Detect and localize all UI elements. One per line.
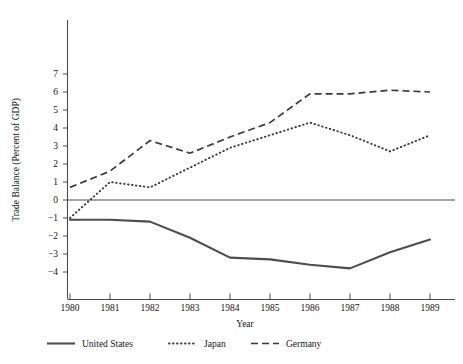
chart-legend: United StatesJapanGermany xyxy=(47,339,322,349)
x-axis-ticks xyxy=(70,294,430,300)
y-axis: 76543210−1−2−3−4 Trade Balance (Percent … xyxy=(11,20,68,299)
y-tick-label-6: 6 xyxy=(53,87,58,97)
y-tick-label-7: 7 xyxy=(53,69,58,79)
trade-balance-line-chart: 76543210−1−2−3−4 Trade Balance (Percent … xyxy=(0,0,463,364)
y-tick-label--1: −1 xyxy=(48,213,58,223)
x-axis: 1980198119821983198419851986198719881989… xyxy=(61,294,456,330)
legend-label-united-states: United States xyxy=(82,339,133,349)
y-tick-label-5: 5 xyxy=(53,105,58,115)
trade-balance-figure: 76543210−1−2−3−4 Trade Balance (Percent … xyxy=(0,0,463,364)
y-tick-label-2: 2 xyxy=(53,159,58,169)
x-tick-label-1985: 1985 xyxy=(261,303,280,313)
x-tick-label-1984: 1984 xyxy=(221,303,240,313)
legend-label-japan: Japan xyxy=(204,339,226,349)
y-axis-tick-labels: 76543210−1−2−3−4 xyxy=(48,69,58,277)
x-tick-label-1980: 1980 xyxy=(61,303,80,313)
x-tick-label-1988: 1988 xyxy=(381,303,400,313)
series-line-japan xyxy=(70,123,430,218)
y-tick-label--2: −2 xyxy=(48,231,58,241)
y-axis-ticks xyxy=(63,74,68,272)
y-tick-label--3: −3 xyxy=(48,249,58,259)
y-tick-label-0: 0 xyxy=(53,195,58,205)
series-line-united-states xyxy=(70,220,430,269)
y-axis-title: Trade Balance (Percent of GDP) xyxy=(11,98,22,222)
y-tick-label-4: 4 xyxy=(53,123,58,133)
y-tick-label-3: 3 xyxy=(53,141,58,151)
x-tick-label-1982: 1982 xyxy=(141,303,160,313)
x-tick-label-1981: 1981 xyxy=(101,303,120,313)
figure-caption-fragment xyxy=(58,0,458,6)
series-line-germany xyxy=(70,90,430,187)
x-tick-label-1983: 1983 xyxy=(181,303,200,313)
y-tick-label--4: −4 xyxy=(48,267,58,277)
x-tick-label-1989: 1989 xyxy=(421,303,440,313)
plot-series-group xyxy=(70,90,430,268)
y-tick-label-1: 1 xyxy=(53,177,58,187)
x-tick-label-1987: 1987 xyxy=(341,303,360,313)
legend-label-germany: Germany xyxy=(286,339,322,349)
x-axis-title: Year xyxy=(236,319,254,329)
x-tick-label-1986: 1986 xyxy=(301,303,320,313)
x-axis-tick-labels: 1980198119821983198419851986198719881989 xyxy=(61,303,440,313)
